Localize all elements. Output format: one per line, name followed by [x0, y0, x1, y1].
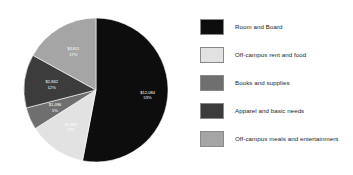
legend-item-books-and-supplies[interactable]: Books and supplies	[200, 74, 350, 92]
legend-item-off-campus-rent-and-food[interactable]: Off-campus rent and food	[200, 46, 350, 64]
slice-value-label-room-and-board: $12,084	[140, 90, 156, 95]
pie-chart-figure: $12,08453%$2,96513%$1,0965%$2,84212%$3,8…	[0, 0, 353, 175]
legend-swatch-off-campus-meals-and-entertainment	[200, 131, 224, 147]
legend-label-apparel-and-basic-needs: Apparel and basic needs	[235, 107, 304, 114]
legend-item-apparel-and-basic-needs[interactable]: Apparel and basic needs	[200, 102, 350, 120]
legend-label-off-campus-rent-and-food: Off-campus rent and food	[235, 51, 306, 58]
slice-percent-label-room-and-board: 53%	[144, 95, 153, 100]
slice-value-label-apparel-and-basic-needs: $2,842	[45, 79, 58, 84]
slice-value-label-off-campus-meals-and-entertainment: $3,811	[67, 46, 80, 51]
slice-percent-label-apparel-and-basic-needs: 12%	[48, 85, 57, 90]
legend-swatch-off-campus-rent-and-food	[200, 47, 224, 63]
legend-item-off-campus-meals-and-entertainment[interactable]: Off-campus meals and entertainment	[200, 130, 350, 148]
chart-legend: Room and BoardOff-campus rent and foodBo…	[200, 18, 350, 158]
legend-label-room-and-board: Room and Board	[235, 23, 282, 30]
legend-swatch-books-and-supplies	[200, 75, 224, 91]
slice-value-label-books-and-supplies: $1,096	[49, 102, 62, 107]
pie-chart-svg: $12,08453%$2,96513%$1,0965%$2,84212%$3,8…	[12, 8, 184, 175]
slice-percent-label-off-campus-meals-and-entertainment: 17%	[69, 52, 78, 57]
legend-swatch-apparel-and-basic-needs	[200, 103, 224, 119]
pie-chart-plot-area: $12,08453%$2,96513%$1,0965%$2,84212%$3,8…	[12, 8, 184, 175]
legend-label-off-campus-meals-and-entertainment: Off-campus meals and entertainment	[235, 135, 338, 142]
slice-percent-label-books-and-supplies: 5%	[52, 108, 58, 113]
legend-item-room-and-board[interactable]: Room and Board	[200, 18, 350, 36]
legend-label-books-and-supplies: Books and supplies	[235, 79, 290, 86]
slice-percent-label-off-campus-rent-and-food: 13%	[67, 127, 76, 132]
slice-value-label-off-campus-rent-and-food: $2,965	[65, 122, 78, 127]
legend-swatch-room-and-board	[200, 19, 224, 35]
